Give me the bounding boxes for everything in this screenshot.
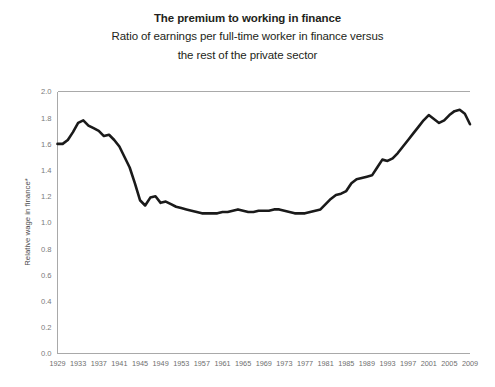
x-axis-tick-label: 1949 [153, 359, 169, 368]
y-axis-tick-label: 0.2 [41, 323, 52, 332]
x-axis-tick-label: 1997 [400, 359, 416, 368]
y-axis-tick-label: 2.0 [41, 87, 52, 96]
x-axis-tick-label: 1945 [132, 359, 148, 368]
y-axis-tick-label: 1.6 [41, 140, 52, 149]
x-axis-tick-label: 1973 [276, 359, 292, 368]
x-axis-tick-label: 1981 [318, 359, 334, 368]
x-axis-tick-label: 1941 [111, 359, 127, 368]
data-line-relative-wage [58, 110, 471, 213]
x-axis-tick-label: 1977 [297, 359, 313, 368]
y-axis-tick-label: 1.4 [41, 166, 52, 175]
x-axis-tick-label: 2009 [462, 359, 478, 368]
x-axis-tick-label: 1957 [194, 359, 210, 368]
x-axis-tick-label: 1969 [256, 359, 272, 368]
x-axis-tick-label: 1953 [173, 359, 189, 368]
x-axis-tick-label: 2005 [441, 359, 457, 368]
x-axis-tick-label: 1961 [214, 359, 230, 368]
x-axis-tick-label: 1933 [70, 359, 86, 368]
x-axis-tick-label: 1937 [91, 359, 107, 368]
y-axis-tick-label: 0.6 [41, 271, 52, 280]
y-axis-tick-label: 1.0 [41, 218, 52, 227]
plot-area: 0.00.20.40.60.81.01.21.41.61.82.0 192919… [0, 0, 495, 387]
y-axis-tick-label: 1.2 [41, 192, 52, 201]
x-axis-tick-labels: 1929193319371941194519491953195719611965… [49, 359, 478, 368]
x-axis-tick-label: 2001 [421, 359, 437, 368]
x-axis-tick-label: 1965 [235, 359, 251, 368]
x-axis-tick-label: 1929 [49, 359, 65, 368]
plot-svg: 0.00.20.40.60.81.01.21.41.61.82.0 192919… [0, 0, 495, 387]
x-axis-tick-label: 1985 [338, 359, 354, 368]
y-axis-tick-label: 1.8 [41, 114, 52, 123]
y-axis-title: Relative wage in finance* [23, 178, 32, 266]
x-axis-tick-label: 1989 [359, 359, 375, 368]
chart-figure: The premium to working in finance Ratio … [0, 0, 495, 387]
y-axis-tick-label: 0.4 [41, 297, 52, 306]
y-axis-tick-label: 0.8 [41, 245, 52, 254]
y-axis-tick-labels: 0.00.20.40.60.81.01.21.41.61.82.0 [41, 87, 52, 358]
y-axis-tick-label: 0.0 [41, 349, 52, 358]
x-axis-tick-label: 1993 [379, 359, 395, 368]
